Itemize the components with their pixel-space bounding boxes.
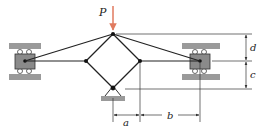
left-bottom-guide [9,74,41,80]
dim-label-a: a [123,117,129,128]
joint-right [138,59,142,63]
right-top-guide [182,43,220,49]
left-top-guide [9,43,41,49]
dim-label-b: b [167,110,173,121]
horizontal-dimensions [113,63,200,122]
load-label: P [98,6,107,19]
linkage-members [25,34,200,88]
dim-label-c: c [250,69,256,80]
member-left-bottom [86,61,113,88]
joint-top [111,32,115,36]
joint-left [84,59,88,63]
right-bottom-guide [182,74,220,80]
dim-label-d: d [250,42,256,53]
member-right-bottom [113,61,140,88]
linkage-diagram: P d c a b [0,0,264,128]
joints [84,32,142,63]
